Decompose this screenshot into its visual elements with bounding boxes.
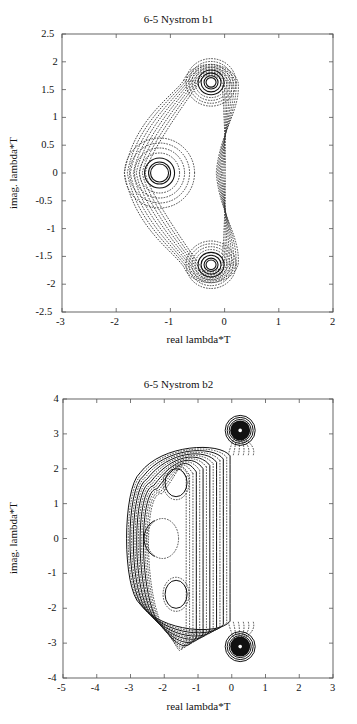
x-tick-label: -3: [125, 682, 134, 693]
y-tick-label: 1: [53, 498, 58, 509]
y-tick-label: 3: [53, 428, 58, 439]
x-tick-label: 0: [229, 682, 234, 693]
x-tick-label: -5: [57, 682, 66, 693]
y-tick-label: -2: [48, 602, 57, 613]
x-tick-label: -1: [192, 682, 201, 693]
x-tick-label: 1: [263, 682, 268, 693]
y-tick-label: -4: [48, 672, 57, 683]
y-tick-label: -3: [48, 637, 57, 648]
y-tick-label: 2: [53, 463, 58, 474]
y-tick-label: 0: [53, 533, 58, 544]
x-tick-label: 3: [330, 682, 335, 693]
x-tick-label: -2: [158, 682, 167, 693]
contour-plot-b2: [0, 0, 357, 724]
chart-panel-b2: 6-5 Nystrom b2 imag. lambda*T real lambd…: [0, 0, 357, 724]
y-tick-label: -1: [48, 567, 57, 578]
x-tick-label: -4: [91, 682, 100, 693]
y-tick-label: 4: [53, 393, 58, 404]
x-tick-label: 2: [296, 682, 301, 693]
contour-lines: [127, 415, 256, 661]
